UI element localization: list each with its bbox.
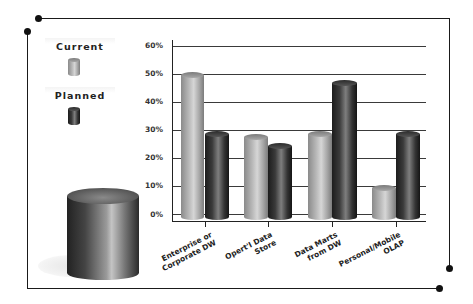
- legend-swatch-planned-icon: [68, 107, 80, 125]
- bar-enterprise-planned: [205, 131, 229, 220]
- bar-operational-planned: [268, 143, 292, 220]
- y-tick-50: 50%: [141, 69, 163, 78]
- x-label-enterprise: Enterprise or Corporate DW: [156, 230, 217, 273]
- frame-left-dot: [24, 28, 31, 35]
- frame-right-dot: [446, 265, 453, 272]
- bar-operational-current: [244, 134, 268, 220]
- frame-bottom-dot: [436, 285, 443, 292]
- x-label-datamarts: Data Marts from DW: [293, 230, 343, 267]
- frame-left-line: [27, 31, 28, 289]
- x-label-operational: Opert'l Data Store: [224, 230, 278, 269]
- legend-label-planned: Planned: [45, 90, 115, 101]
- x-axis: [172, 221, 426, 222]
- database-cylinder-icon: [67, 188, 139, 280]
- y-tick-30: 30%: [141, 125, 163, 134]
- legend-label-current: Current: [45, 41, 115, 52]
- frame-top-line: [38, 18, 450, 19]
- x-tick-4: [396, 222, 397, 227]
- gridline-60: [172, 46, 426, 47]
- bar-datamarts-planned: [332, 80, 357, 220]
- frame-right-line: [449, 18, 450, 268]
- bar-olap-current: [372, 185, 396, 220]
- y-axis: [172, 40, 173, 222]
- x-tick-3: [332, 222, 333, 227]
- legend-swatch-current-icon: [68, 58, 80, 76]
- bar-enterprise-current: [181, 72, 204, 220]
- y-tick-40: 40%: [141, 97, 163, 106]
- y-tick-20: 20%: [141, 153, 163, 162]
- x-tick-1: [205, 222, 206, 227]
- y-tick-0: 0%: [141, 210, 163, 219]
- frame-bottom-line: [27, 288, 439, 289]
- gridline-50: [172, 74, 426, 75]
- y-tick-60: 60%: [141, 41, 163, 50]
- x-label-olap: Personal/Mobile OLAP: [338, 230, 407, 277]
- gridline-40: [172, 102, 426, 103]
- y-tick-10: 10%: [141, 181, 163, 190]
- bar-datamarts-current: [308, 131, 332, 220]
- frame-top-dot: [35, 15, 42, 22]
- x-tick-2: [268, 222, 269, 227]
- bar-olap-planned: [396, 131, 420, 220]
